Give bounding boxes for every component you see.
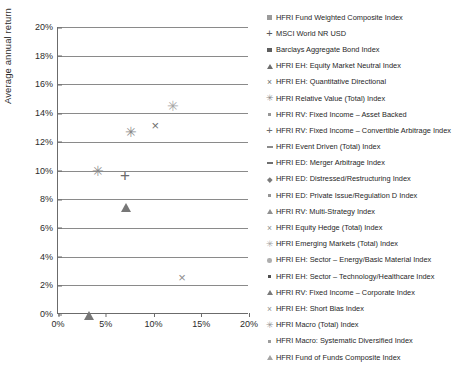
triangle-marker-icon <box>267 355 273 360</box>
square-marker-icon <box>267 15 272 20</box>
asterisk-marker-icon: ✳ <box>125 124 137 140</box>
dash-marker-icon <box>267 146 273 148</box>
legend-label: HFRI ED: Merger Arbitrage Index <box>275 159 454 167</box>
data-point <box>84 293 94 309</box>
legend-item[interactable]: Barclays Aggregate Bond Index <box>264 42 454 57</box>
legend-marker: ✳ <box>264 320 275 331</box>
legend-label: HFRI RV: Fixed Income – Corporate Index <box>275 289 454 297</box>
legend-label: HFRI RV: Multi-Strategy Index <box>275 208 454 216</box>
data-point: ✳ <box>167 98 179 114</box>
gridline <box>58 27 248 28</box>
data-point: × <box>178 269 186 285</box>
legend-marker: × <box>264 223 275 234</box>
data-point: × <box>152 117 160 133</box>
legend-marker <box>264 61 275 72</box>
legend-item[interactable]: HFRI Fund of Funds Composite Index <box>264 350 454 365</box>
legend-label: HFRI EH: Equity Market Neutral Index <box>275 62 454 70</box>
legend-item[interactable]: HFRI EH: Sector – Technology/Healthcare … <box>264 269 454 284</box>
legend-item[interactable]: ×HFRI EH: Quantitative Directional <box>264 75 454 90</box>
legend-marker: × <box>264 303 275 314</box>
gridline <box>58 257 248 258</box>
legend-item[interactable]: HFRI EH: Sector – Energy/Basic Material … <box>264 253 454 268</box>
triangle-marker-icon <box>84 294 94 320</box>
y-tick-label: 16% <box>35 80 58 89</box>
legend-item[interactable]: HFRI EH: Equity Market Neutral Index <box>264 59 454 74</box>
x-tick-label: 0% <box>51 320 64 329</box>
x-tick-label: 20% <box>240 320 258 329</box>
data-point <box>121 185 131 201</box>
legend-marker <box>264 206 275 217</box>
legend-item[interactable]: ✳HFRI Relative Value (Total) Index <box>264 91 454 106</box>
legend-label: HFRI RV: Fixed Income – Convertible Arbi… <box>275 127 454 135</box>
legend-label: HFRI Equity Hedge (Total) Index <box>275 224 454 232</box>
legend-label: HFRI ED: Private Issue/Regulation D Inde… <box>275 192 454 200</box>
legend-label: HFRI Fund of Funds Composite Index <box>275 354 454 362</box>
square-small-marker-icon <box>268 194 272 198</box>
legend-item[interactable]: ✳HFRI Macro (Total) Index <box>264 318 454 333</box>
gridline <box>58 113 248 114</box>
triangle-marker-icon <box>121 186 131 212</box>
legend-marker <box>264 271 275 282</box>
legend-item[interactable]: HFRI RV: Fixed Income – Asset Backed <box>264 107 454 122</box>
y-tick-label: 0% <box>40 310 58 319</box>
legend-item[interactable]: HFRI RV: Multi-Strategy Index <box>264 204 454 219</box>
legend-item[interactable]: HFRI Fund Weighted Composite Index <box>264 10 454 25</box>
triangle-marker-icon <box>267 64 273 69</box>
legend-item[interactable]: +HFRI RV: Fixed Income – Convertible Arb… <box>264 123 454 138</box>
gridline <box>58 56 248 57</box>
gridline <box>58 171 248 172</box>
asterisk-marker-icon: ✳ <box>167 98 179 114</box>
legend-label: HFRI EH: Quantitative Directional <box>275 78 454 86</box>
legend-label: MSCI World NR USD <box>275 30 454 38</box>
chart-root: Average annual return 0%2%4%6%8%10%12%14… <box>0 0 454 375</box>
legend-marker <box>264 109 275 120</box>
data-point: ✳ <box>125 124 137 140</box>
y-tick-label: 12% <box>35 137 58 146</box>
scatter-plot: Average annual return 0%2%4%6%8%10%12%14… <box>0 0 262 375</box>
legend-item[interactable]: HFRI ED: Distressed/Restructuring Index <box>264 172 454 187</box>
y-axis-label: Average annual return <box>2 0 13 104</box>
legend-item[interactable]: HFRI Macro: Systematic Diversified Index <box>264 334 454 349</box>
plus-marker-icon: + <box>266 28 272 39</box>
gridline <box>58 228 248 229</box>
legend-label: HFRI Macro: Systematic Diversified Index <box>275 337 454 345</box>
legend-item[interactable]: HFRI Event Driven (Total) Index <box>264 140 454 155</box>
triangle-marker-icon <box>267 209 273 214</box>
dash-marker-icon <box>267 162 273 164</box>
legend-label: HFRI Emerging Markets (Total) Index <box>275 240 454 248</box>
x-marker-icon: × <box>267 78 272 87</box>
legend-item[interactable]: HFRI RV: Fixed Income – Corporate Index <box>264 285 454 300</box>
legend-marker: ✳ <box>264 239 275 250</box>
y-tick-label: 6% <box>40 223 58 232</box>
legend-marker <box>264 174 275 185</box>
gridline <box>58 285 248 286</box>
data-point: ✳ <box>92 163 104 179</box>
diamond-marker-icon <box>267 177 272 182</box>
asterisk-marker-icon: ✳ <box>266 240 274 249</box>
legend-label: HFRI EH: Short Bias Index <box>275 305 454 313</box>
gridline <box>58 199 248 200</box>
legend-label: HFRI Fund Weighted Composite Index <box>275 14 454 22</box>
legend-item[interactable]: ×HFRI Equity Hedge (Total) Index <box>264 220 454 235</box>
legend-item[interactable]: ✳HFRI Emerging Markets (Total) Index <box>264 237 454 252</box>
legend-marker <box>264 287 275 298</box>
asterisk-marker-icon: ✳ <box>92 163 104 179</box>
y-tick-label: 4% <box>40 252 58 261</box>
legend-item[interactable]: ×HFRI EH: Short Bias Index <box>264 301 454 316</box>
square-small-marker-icon <box>268 275 272 279</box>
x-tick-label: 10% <box>144 320 162 329</box>
legend-marker <box>264 255 275 266</box>
legend-label: HFRI EH: Sector – Technology/Healthcare … <box>275 273 454 281</box>
legend-marker <box>264 336 275 347</box>
legend-marker <box>264 190 275 201</box>
y-tick-label: 18% <box>35 51 58 60</box>
legend-item[interactable]: +MSCI World NR USD <box>264 26 454 41</box>
legend-marker: + <box>264 28 275 39</box>
legend: HFRI Fund Weighted Composite Index+MSCI … <box>264 10 454 366</box>
plot-area: 0%2%4%6%8%10%12%14%16%18%20% 0%5%10%15%2… <box>57 27 248 314</box>
square-small-marker-icon <box>268 340 272 344</box>
legend-item[interactable]: HFRI ED: Private Issue/Regulation D Inde… <box>264 188 454 203</box>
legend-item[interactable]: HFRI ED: Merger Arbitrage Index <box>264 156 454 171</box>
y-tick-label: 20% <box>35 23 58 32</box>
y-tick-label: 8% <box>40 195 58 204</box>
